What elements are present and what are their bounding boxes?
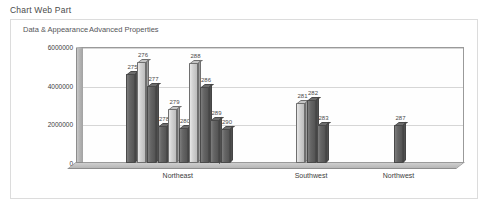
y-axis-tick-label: 4000000 [48, 82, 73, 89]
bar-layer: 2752762772782792802882862892902812822832… [84, 48, 464, 163]
bar-face [394, 125, 403, 163]
bar-side [326, 122, 329, 163]
bar-side [403, 122, 406, 163]
chart-web-part-screen: Chart Web Part Data & Appearance Advance… [0, 0, 489, 210]
web-part-frame: Data & Appearance Advanced Properties 02… [10, 19, 478, 199]
tab-strip: Data & Appearance Advanced Properties [11, 20, 477, 40]
chart-bar[interactable] [158, 126, 167, 163]
x-axis-category-label: Northeast [163, 172, 193, 179]
chart-bar[interactable] [137, 62, 146, 163]
bar-value-label: 277 [148, 76, 158, 82]
bar-value-label: 290 [222, 119, 232, 125]
bar-value-label: 287 [395, 115, 405, 121]
bar-top [168, 106, 182, 110]
chart-bar[interactable] [126, 74, 135, 163]
chart-bar[interactable] [394, 125, 403, 163]
chart-bar[interactable] [168, 109, 177, 163]
bar-face [179, 128, 188, 163]
bar-value-label: 276 [138, 52, 148, 58]
bar-value-label: 286 [201, 77, 211, 83]
y-axis-tick-label: 6000000 [48, 44, 73, 51]
bar-value-label: 288 [190, 53, 200, 59]
bar-value-label: 282 [308, 90, 318, 96]
chart-bar[interactable] [307, 100, 316, 163]
bar-face [158, 126, 167, 163]
bar-top [147, 83, 161, 87]
bar-value-label: 281 [297, 93, 307, 99]
chart-bar[interactable] [210, 120, 219, 164]
tab-advanced-properties[interactable]: Advanced Properties [89, 25, 159, 34]
bar-top [394, 122, 408, 126]
bar-value-label: 279 [169, 99, 179, 105]
y-axis-tick-label: 2000000 [48, 121, 73, 128]
chart-bar[interactable] [296, 103, 305, 163]
bar-top [189, 60, 203, 64]
bar-face [221, 129, 230, 163]
chart-bar[interactable] [189, 63, 198, 163]
page-title: Chart Web Part [10, 5, 71, 15]
bar-face [137, 62, 146, 163]
y-axis: 0200000040000006000000 [21, 47, 73, 163]
bar-face [317, 125, 326, 163]
bar-face [126, 74, 135, 163]
bar-face [210, 120, 219, 164]
chart-bar[interactable] [221, 129, 230, 163]
bar-face [296, 103, 305, 163]
bar-face [307, 100, 316, 163]
chart-bar[interactable] [317, 125, 326, 163]
bar-top [317, 122, 331, 126]
bar-side [230, 126, 233, 163]
x-axis-category-label: Northwest [383, 172, 415, 179]
x-axis-categories: NortheastSouthwestNorthwest [84, 172, 464, 184]
chart-bar[interactable] [147, 86, 156, 163]
bar-face [189, 63, 198, 163]
bar-face [147, 86, 156, 163]
chart-floor [67, 162, 465, 169]
bar-value-label: 289 [211, 110, 221, 116]
bar-value-label: 283 [318, 115, 328, 121]
chart-bar[interactable] [200, 87, 209, 163]
bar-face [168, 109, 177, 163]
tab-data-and-appearance[interactable]: Data & Appearance [23, 25, 88, 34]
x-axis-category-label: Southwest [295, 172, 328, 179]
chart-container: 0200000040000006000000 27527627727827928… [21, 41, 469, 187]
chart-bar[interactable] [179, 128, 188, 163]
bar-face [200, 87, 209, 163]
